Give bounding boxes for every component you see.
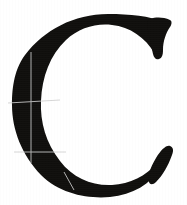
- glyph-specimen-canvas: C: [0, 0, 187, 205]
- glyph-artwork: [0, 0, 187, 205]
